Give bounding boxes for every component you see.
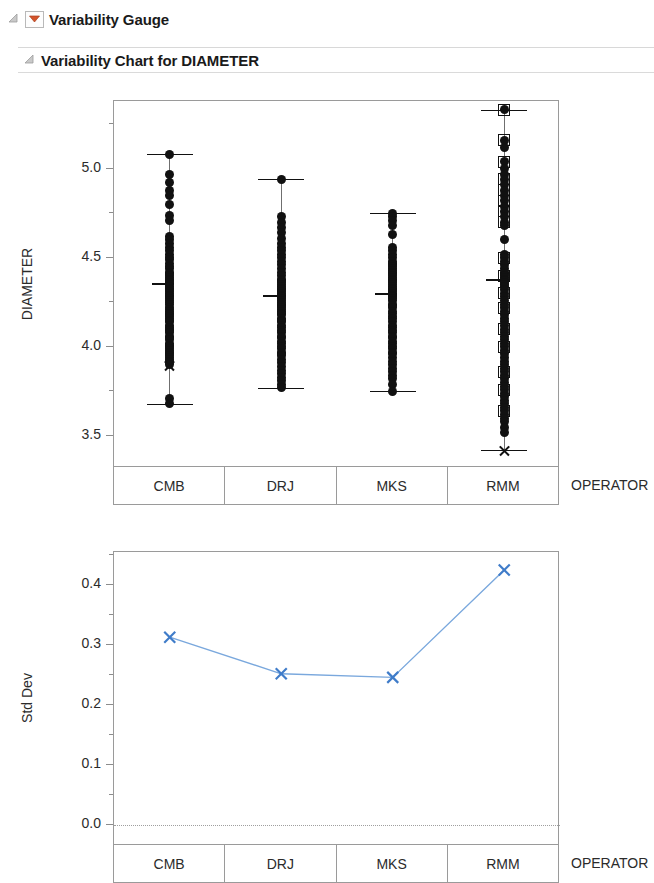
x-axis-category-cell[interactable]: DRJ <box>225 467 336 504</box>
data-point[interactable] <box>165 191 174 200</box>
x-axis-category-band: CMBDRJMKSRMM <box>113 467 559 505</box>
x-axis-category-cell[interactable]: RMM <box>448 467 558 504</box>
data-point-selected[interactable] <box>498 405 510 417</box>
data-point[interactable] <box>500 428 509 437</box>
data-point-selected[interactable] <box>498 104 510 116</box>
y-tick-label: 0.4 <box>55 575 101 591</box>
y-tick-mark <box>106 346 113 347</box>
y-tick-mark <box>106 435 113 436</box>
y-tick-mark <box>106 644 113 645</box>
x-axis-category-cell[interactable]: MKS <box>337 467 448 504</box>
y-axis-title-std-dev: Std Dev <box>19 673 35 723</box>
data-point-selected[interactable] <box>498 156 510 168</box>
y-tick-label: 4.0 <box>55 337 101 353</box>
y-tick-label: 0.1 <box>55 755 101 771</box>
data-point-selected[interactable] <box>498 216 510 228</box>
data-point-selected[interactable] <box>498 287 510 299</box>
variability-column[interactable] <box>337 101 449 466</box>
outline-row-variability-gauge[interactable]: Variability Gauge <box>0 6 654 32</box>
mean-marker <box>163 358 176 371</box>
x-axis-category-cell[interactable]: CMB <box>114 845 225 882</box>
data-point[interactable] <box>388 230 397 239</box>
y-tick-mark <box>106 764 113 765</box>
data-point[interactable] <box>165 399 174 408</box>
y-tick-mark <box>106 824 113 825</box>
data-point[interactable] <box>388 221 397 230</box>
variability-column[interactable] <box>226 101 338 466</box>
mean-marker <box>498 444 511 457</box>
plot-area[interactable] <box>113 551 559 845</box>
triangle-open-icon[interactable] <box>24 54 36 66</box>
red-triangle-menu-icon[interactable] <box>25 11 44 28</box>
y-tick-label: 0.2 <box>55 695 101 711</box>
y-tick-mark <box>106 704 113 705</box>
data-point[interactable] <box>165 170 174 179</box>
variability-chart: DIAMETER 3.54.04.55.0 CMBDRJMKSRMM OPERA… <box>0 86 654 506</box>
std-dev-point[interactable] <box>499 565 510 576</box>
variability-chart-title: Variability Chart for DIAMETER <box>41 52 259 69</box>
data-point-selected[interactable] <box>498 341 510 353</box>
data-point-selected[interactable] <box>498 270 510 282</box>
data-point-selected[interactable] <box>498 366 510 378</box>
y-tick-label: 0.3 <box>55 635 101 651</box>
y-tick-label: 0.0 <box>55 815 101 831</box>
variability-column[interactable] <box>114 101 226 466</box>
x-axis-category-cell[interactable]: RMM <box>448 845 558 882</box>
data-point-selected[interactable] <box>498 323 510 335</box>
x-axis-category-cell[interactable]: MKS <box>337 845 448 882</box>
data-point[interactable] <box>500 235 509 244</box>
variability-gauge-title: Variability Gauge <box>49 11 169 28</box>
x-axis-category-cell[interactable]: CMB <box>114 467 225 504</box>
std-dev-chart: Std Dev 0.00.10.20.30.4 CMBDRJMKSRMM OPE… <box>0 520 654 865</box>
std-dev-point[interactable] <box>164 632 175 643</box>
x-axis-title-operator: OPERATOR <box>571 855 648 871</box>
x-axis-title-operator: OPERATOR <box>571 477 648 493</box>
y-tick-label: 5.0 <box>55 159 101 175</box>
outline-row-variability-chart[interactable]: Variability Chart for DIAMETER <box>18 47 654 73</box>
y-tick-label: 4.5 <box>55 248 101 264</box>
x-axis-category-band: CMBDRJMKSRMM <box>113 845 559 883</box>
std-dev-line <box>170 570 505 677</box>
y-tick-mark <box>106 257 113 258</box>
y-axis-title-diameter: DIAMETER <box>19 247 35 319</box>
data-point-selected[interactable] <box>498 384 510 396</box>
data-point-selected[interactable] <box>498 134 510 146</box>
y-tick-mark <box>106 168 113 169</box>
x-axis-category-cell[interactable]: DRJ <box>225 845 336 882</box>
y-tick-label: 3.5 <box>55 426 101 442</box>
data-point[interactable] <box>165 150 174 159</box>
data-point[interactable] <box>165 216 174 225</box>
data-point[interactable] <box>277 383 286 392</box>
y-tick-mark <box>106 584 113 585</box>
data-point[interactable] <box>165 200 174 209</box>
std-dev-line-series <box>114 552 560 846</box>
variability-column[interactable] <box>449 101 561 466</box>
data-point[interactable] <box>277 175 286 184</box>
plot-area[interactable] <box>113 100 559 467</box>
data-point-selected[interactable] <box>498 252 510 264</box>
data-point-selected[interactable] <box>498 302 510 314</box>
triangle-open-icon[interactable] <box>8 13 20 25</box>
data-point[interactable] <box>388 387 397 396</box>
